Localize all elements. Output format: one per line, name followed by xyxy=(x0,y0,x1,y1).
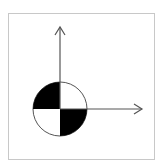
cog-diagram xyxy=(0,0,167,167)
diagram-frame xyxy=(9,14,155,160)
